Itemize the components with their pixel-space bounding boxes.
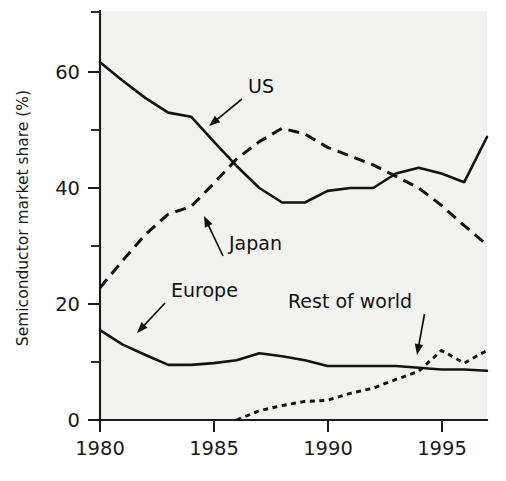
y-tick-label-60: 60	[55, 61, 80, 84]
annotation-label-japan: Japan	[228, 232, 282, 254]
x-tick-label-1985: 1985	[189, 437, 239, 460]
chart-canvas: 0 20 40 60 Semiconductor market share (%…	[0, 0, 506, 481]
y-tick-label-40: 40	[55, 177, 80, 200]
x-tick-label-1995: 1995	[417, 437, 467, 460]
chart-figure: 0 20 40 60 Semiconductor market share (%…	[0, 0, 506, 481]
x-tick-label-1980: 1980	[75, 437, 125, 460]
annotation-label-us: US	[248, 75, 274, 97]
y-axis: 0 20 40 60 Semiconductor market share (%…	[14, 11, 100, 432]
annotation-label-europe: Europe	[171, 279, 238, 301]
annotation-label-rest-of-world: Rest of world	[288, 290, 412, 312]
x-axis: 1980 1985 1990 1995	[75, 420, 487, 460]
y-tick-label-0: 0	[68, 409, 80, 432]
y-axis-title: Semiconductor market share (%)	[14, 90, 32, 346]
y-tick-label-20: 20	[55, 293, 80, 316]
x-tick-label-1990: 1990	[303, 437, 353, 460]
